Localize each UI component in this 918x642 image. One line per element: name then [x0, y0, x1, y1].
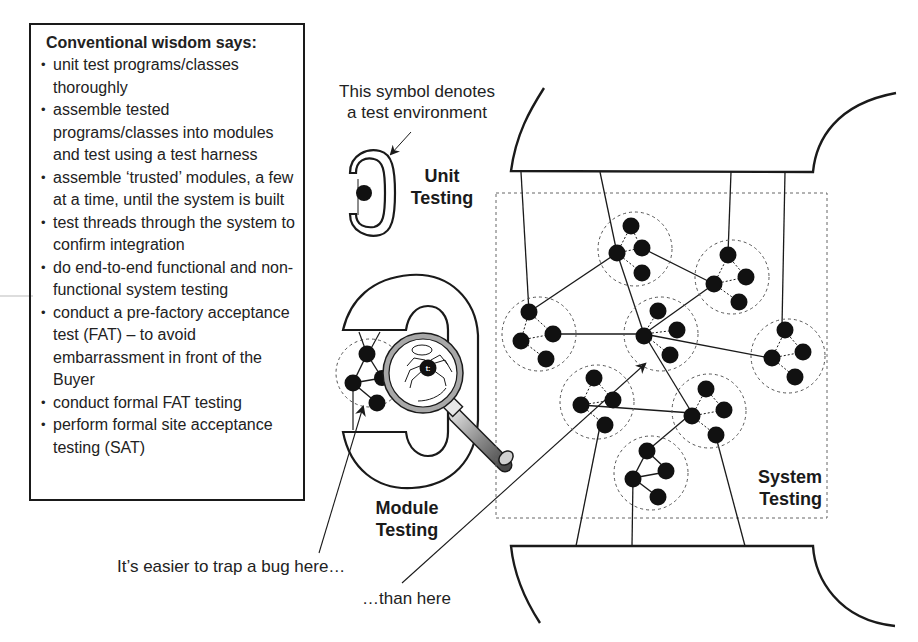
- system-cluster-bottom: [614, 436, 688, 510]
- wisdom-item: conduct formal FAT testing: [39, 392, 295, 415]
- symbol-note: This symbol denotes a test environment: [322, 81, 512, 123]
- unit-test-symbol-icon: [350, 150, 395, 235]
- than-here-label: …than here: [362, 588, 512, 609]
- wisdom-item: perform formal site acceptance testing (…: [39, 414, 295, 459]
- module-testing-line1: Module: [362, 497, 452, 519]
- unit-testing-line1: Unit: [406, 165, 478, 187]
- wisdom-item: do end-to-end functional and non-functio…: [39, 257, 295, 302]
- easier-here-label: It’s easier to trap a bug here…: [117, 556, 417, 577]
- system-cluster-upper-right: [695, 240, 769, 314]
- symbol-note-arrow: [391, 132, 411, 154]
- system-cluster-lower-left: [560, 365, 634, 439]
- symbol-note-line2: a test environment: [322, 102, 512, 123]
- unit-testing-line2: Testing: [406, 187, 478, 209]
- module-testing-label: Module Testing: [362, 497, 452, 541]
- svg-text:t:: t:: [426, 365, 431, 372]
- symbol-note-line1: This symbol denotes: [322, 81, 512, 102]
- system-testing-label: System Testing: [740, 466, 822, 510]
- system-testing-line2: Testing: [740, 488, 822, 510]
- system-testing-line1: System: [740, 466, 822, 488]
- conventional-wisdom-box: Conventional wisdom says: unit test prog…: [29, 23, 305, 501]
- wisdom-item: unit test programs/classes thoroughly: [39, 54, 295, 99]
- system-cluster-lower-right: [672, 374, 746, 448]
- wisdom-item: assemble ‘trusted’ modules, a few at a t…: [39, 167, 295, 212]
- wisdom-title: Conventional wisdom says:: [46, 33, 295, 53]
- module-testing-line2: Testing: [362, 519, 452, 541]
- system-harness-top: [511, 88, 896, 172]
- easier-here-arrow: [319, 407, 363, 553]
- wisdom-list: unit test programs/classes thoroughly as…: [39, 54, 295, 459]
- wisdom-item: assemble tested programs/classes into mo…: [39, 99, 295, 167]
- wisdom-item: conduct a pre-factory acceptance test (F…: [39, 302, 295, 392]
- system-cluster-top: [598, 212, 672, 286]
- system-harness-bottom: [511, 546, 895, 626]
- wisdom-item: test threads through the system to confi…: [39, 212, 295, 257]
- unit-testing-label: Unit Testing: [406, 165, 478, 209]
